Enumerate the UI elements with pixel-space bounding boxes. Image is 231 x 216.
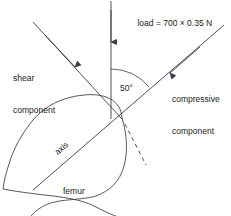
load-label: load = 700 × 0.35 N (128, 7, 212, 39)
femur-force-diagram: load = 700 × 0.35 N shear component comp… (0, 0, 231, 216)
shear-component-label: shear component (13, 52, 55, 136)
compressive-label-line2: component (172, 126, 220, 137)
angle-label: 50° (120, 83, 133, 94)
compressive-component-arrow (170, 47, 200, 73)
compressive-label-line1: compressive (172, 94, 220, 105)
load-label-text: load = 700 × 0.35 N (137, 18, 212, 28)
shear-label-line2: component (13, 105, 55, 116)
femur-label: femur (63, 186, 85, 197)
femur-shaft-contour (3, 189, 116, 216)
dashed-reference-line (125, 124, 146, 165)
compressive-component-label: compressive component (172, 73, 220, 157)
shear-label-line1: shear (13, 73, 55, 84)
